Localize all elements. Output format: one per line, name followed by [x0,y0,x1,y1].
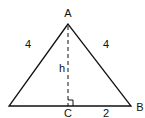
label-half-base: 2 [103,107,109,118]
triangle-diagram: A 4 4 h C 2 B [0,0,145,118]
label-c: C [64,107,72,118]
label-h: h [59,62,65,74]
label-b: B [136,101,143,113]
right-angle-marker [68,100,73,106]
triangle [9,24,131,106]
label-a: A [64,7,72,19]
label-right-side: 4 [103,38,109,50]
label-left-side: 4 [25,38,31,50]
